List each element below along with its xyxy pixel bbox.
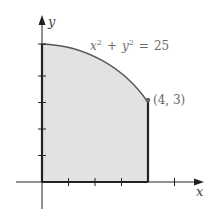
point-marker [146, 98, 151, 103]
eq-rhs: 25 [154, 39, 169, 53]
point-label: (4, 3) [153, 93, 185, 107]
region-diagram: (4, 3) x2+y2=25 x y [0, 0, 221, 222]
y-axis-label: y [47, 14, 56, 29]
eq-y-exp: 2 [129, 38, 134, 47]
eq-x-exp: 2 [97, 38, 102, 47]
eq-equals: = [139, 39, 149, 53]
shaded-region [42, 44, 148, 182]
y-axis-arrow-icon [39, 15, 46, 25]
equation-label: x2+y2=25 [90, 38, 169, 53]
x-axis-label: x [196, 184, 204, 199]
eq-plus: + [107, 39, 117, 53]
